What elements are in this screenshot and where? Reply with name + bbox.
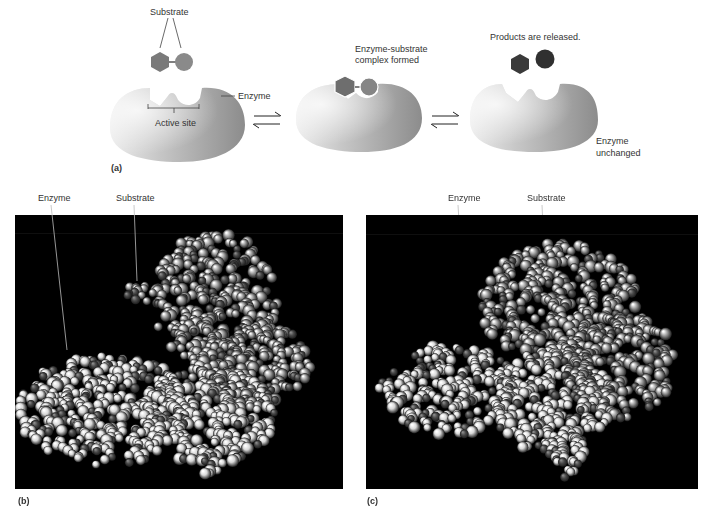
enzyme-unchanged-line2: unchanged [596, 148, 641, 159]
complex-label-line1: Enzyme-substrate [355, 44, 428, 55]
panel-a-diagram [0, 0, 710, 200]
enzyme-label: Enzyme [238, 91, 271, 102]
enzyme-substrate-complex [296, 76, 422, 152]
substrate-molecule [151, 52, 193, 72]
products-label: Products are released. [490, 32, 581, 43]
panel-c-substrate-label: Substrate [527, 193, 566, 204]
product-circle [536, 50, 555, 69]
panel-b-substrate-label: Substrate [116, 193, 155, 204]
atom-spheres [15, 215, 343, 489]
product-hexagon [511, 54, 529, 74]
complex-label-line2: complex formed [355, 55, 419, 66]
enzyme-shape-unchanged [470, 84, 598, 152]
active-site-label: Active site [155, 118, 196, 129]
panel-c-enzyme-label: Enzyme [448, 193, 481, 204]
atom-spheres [366, 215, 698, 489]
substrate-label: Substrate [150, 7, 189, 18]
equilibrium-arrows-icon-2 [431, 112, 459, 128]
panel-b-enzyme-label: Enzyme [38, 193, 71, 204]
equilibrium-arrows-icon [253, 112, 281, 128]
panel-a-letter: (a) [111, 163, 122, 173]
panel-b-molecular-model [15, 215, 343, 489]
products [511, 50, 555, 75]
panel-c-letter: (c) [367, 496, 378, 506]
enzyme-unchanged-line1: Enzyme [596, 136, 629, 147]
panel-b-letter: (b) [18, 496, 30, 506]
panel-c-molecular-model [366, 215, 698, 489]
